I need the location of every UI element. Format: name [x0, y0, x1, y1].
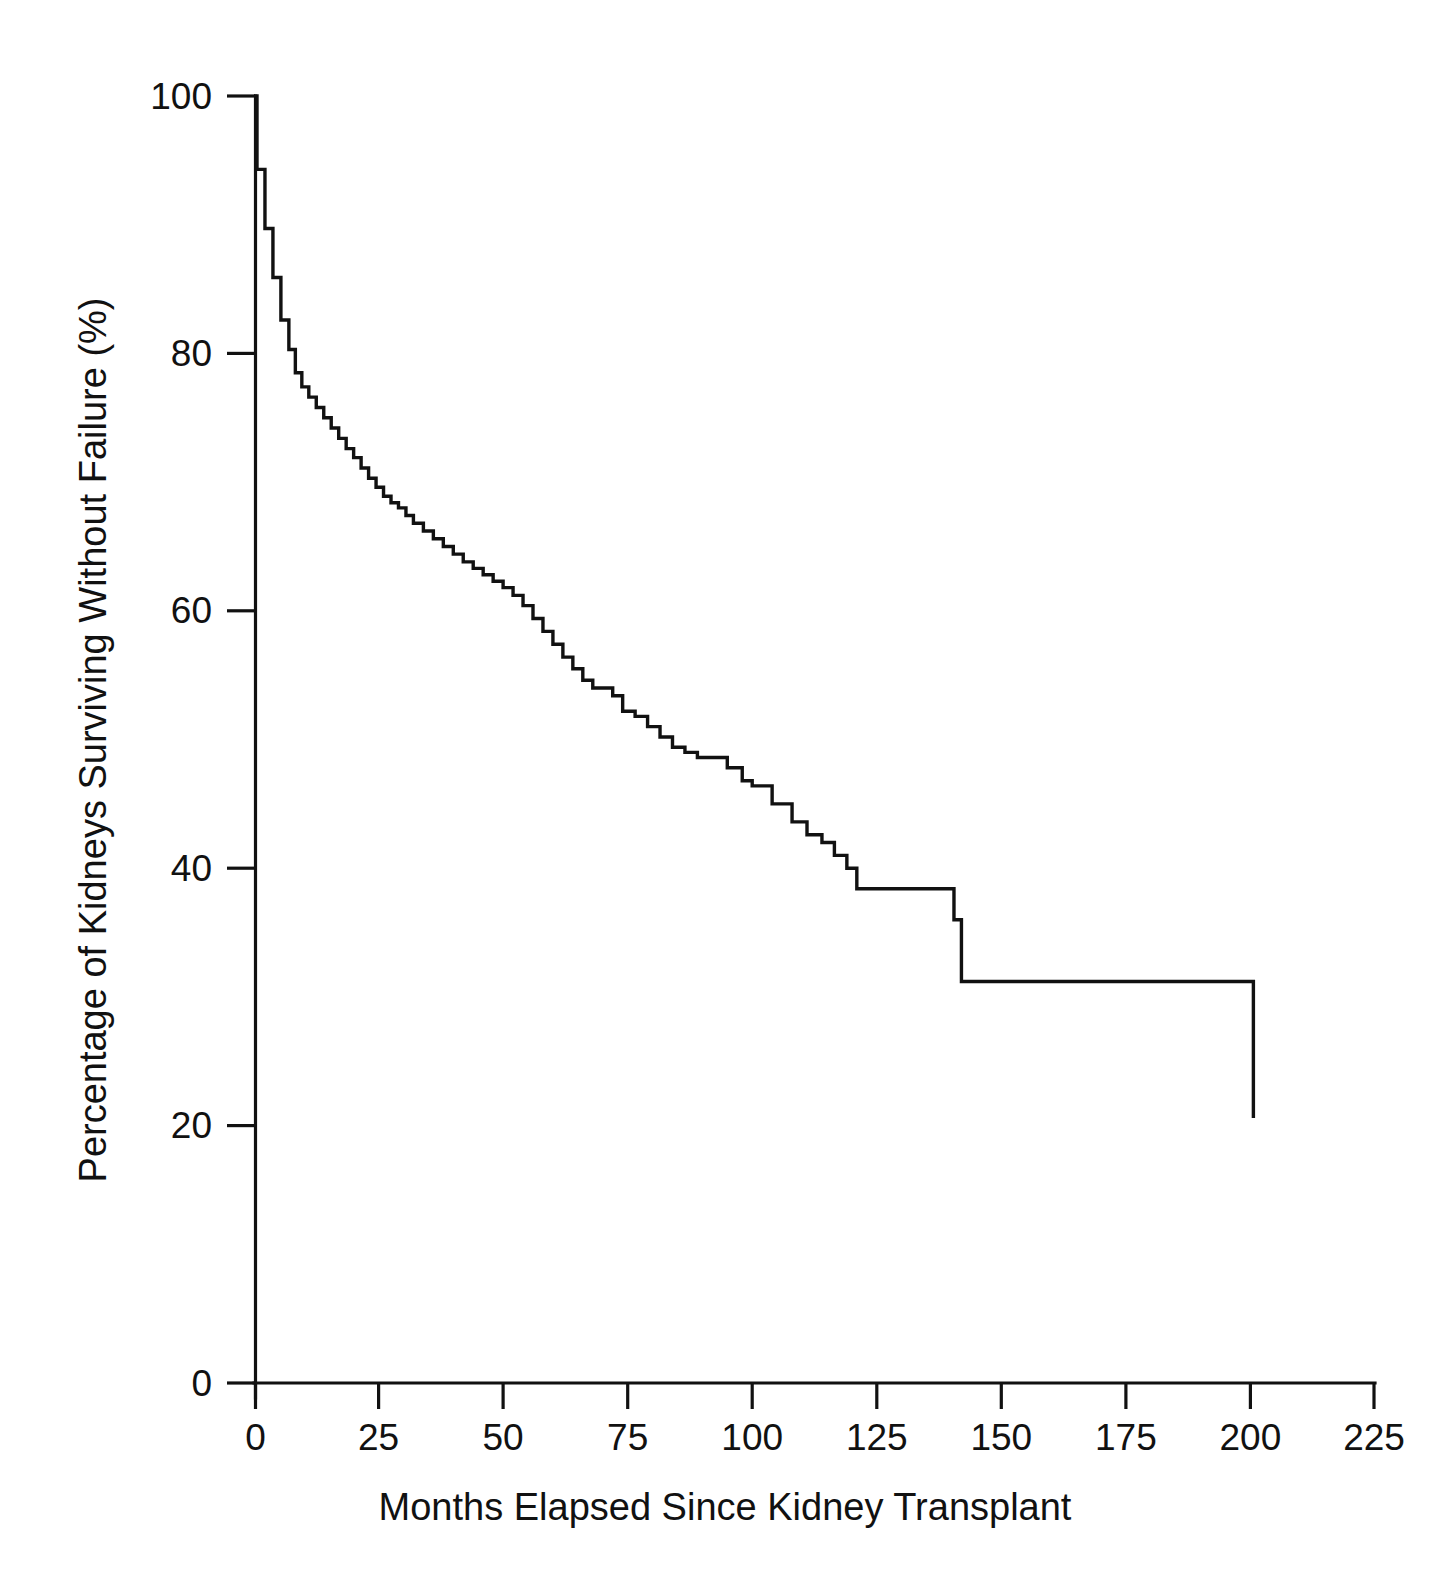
y-tick-label-20: 20: [171, 1105, 212, 1146]
y-tick-label-60: 60: [171, 590, 212, 631]
x-tick-label-100: 100: [721, 1417, 783, 1458]
x-tick-label-175: 175: [1095, 1417, 1157, 1458]
x-axis-tick-labels: 0 25 50 75 100 125 150 175 200 225: [245, 1417, 1405, 1458]
survival-curve-chart: 0 20 40 60 80 100 0 25 50 75 100: [0, 0, 1451, 1589]
x-axis-ticks: [256, 1383, 1375, 1409]
y-axis-tick-labels: 0 20 40 60 80 100: [150, 76, 212, 1404]
x-tick-label-50: 50: [483, 1417, 524, 1458]
y-axis-ticks: [227, 96, 255, 1383]
y-axis-title: Percentage of Kidneys Surviving Without …: [72, 298, 114, 1183]
kaplan-meier-figure: 0 20 40 60 80 100 0 25 50 75 100: [0, 0, 1451, 1589]
x-tick-label-150: 150: [970, 1417, 1032, 1458]
y-tick-label-0: 0: [191, 1363, 212, 1404]
x-tick-label-0: 0: [245, 1417, 266, 1458]
x-axis-title: Months Elapsed Since Kidney Transplant: [379, 1486, 1072, 1528]
survival-step-curve: [254, 96, 1253, 1118]
y-tick-label-40: 40: [171, 848, 212, 889]
x-tick-label-25: 25: [358, 1417, 399, 1458]
x-tick-label-75: 75: [607, 1417, 648, 1458]
x-tick-label-200: 200: [1220, 1417, 1282, 1458]
y-tick-label-100: 100: [150, 76, 212, 117]
y-tick-label-80: 80: [171, 333, 212, 374]
x-tick-label-125: 125: [846, 1417, 908, 1458]
x-tick-label-225: 225: [1343, 1417, 1405, 1458]
